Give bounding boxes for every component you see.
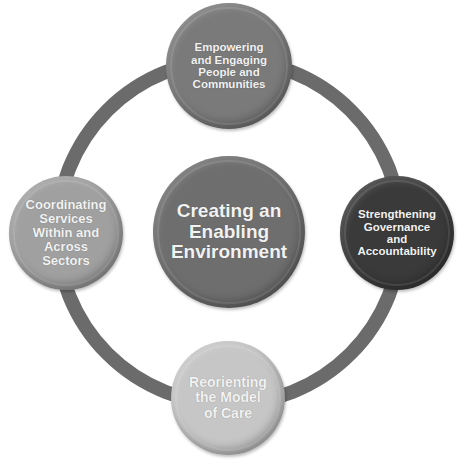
node-label: Strengthening Governance and Accountabil… xyxy=(357,208,436,258)
strategy-cycle-diagram: Empowering and Engaging People and Commu… xyxy=(0,0,459,461)
node-label: Coordinating Services Within and Across … xyxy=(26,198,107,268)
node-reorienting-model-of-care: Reorienting the Model of Care xyxy=(171,341,285,455)
node-coordinating-services: Coordinating Services Within and Across … xyxy=(9,176,123,290)
node-label: Empowering and Engaging People and Commu… xyxy=(191,41,267,91)
node-label: Reorienting the Model of Care xyxy=(189,375,267,420)
center-label: Creating an Enabling Environment xyxy=(171,201,287,263)
center-node-enabling-environment: Creating an Enabling Environment xyxy=(153,156,305,308)
node-strengthening-governance: Strengthening Governance and Accountabil… xyxy=(340,176,454,290)
node-empowering-engaging-people: Empowering and Engaging People and Commu… xyxy=(166,3,292,129)
